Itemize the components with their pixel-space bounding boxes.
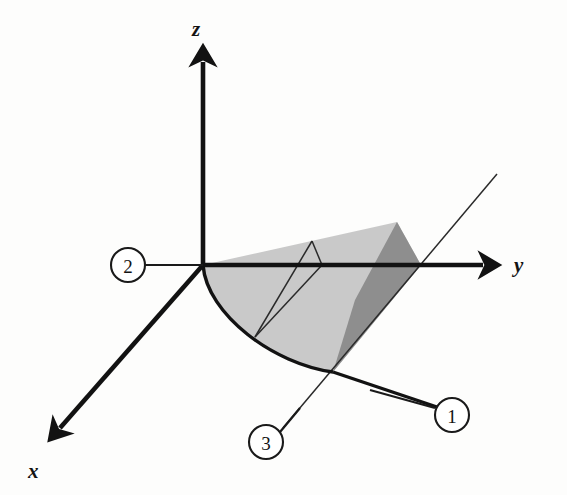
axis-label-x: x <box>27 459 39 483</box>
shaded-region-group <box>203 222 421 372</box>
callout-marker-3[interactable]: 3 <box>249 408 300 459</box>
axis-line-x <box>60 265 203 428</box>
callout-label-3: 3 <box>261 433 271 454</box>
callout-label-2: 2 <box>123 256 133 277</box>
axis-label-y: y <box>511 253 524 277</box>
axis-label-z: z <box>191 17 201 41</box>
callout-marker-2[interactable]: 2 <box>111 248 203 282</box>
region-boundary-arc-extension <box>333 372 437 407</box>
callout-label-1: 1 <box>447 406 457 427</box>
callout-leader-3 <box>280 408 300 432</box>
figure-canvas: z y x 1 2 3 <box>0 0 567 495</box>
callout-marker-1[interactable]: 1 <box>370 390 469 432</box>
callout-leader-1 <box>370 390 435 408</box>
coordinate-axes-diagram: z y x 1 2 3 <box>0 0 567 495</box>
